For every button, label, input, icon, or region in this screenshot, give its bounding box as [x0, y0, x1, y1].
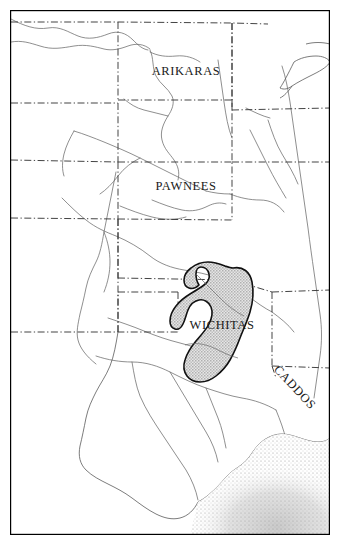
label-pawnees: PAWNEES	[155, 179, 216, 193]
label-wichitas: WICHITAS	[190, 318, 255, 332]
map-body	[10, 10, 330, 535]
map-canvas: ARIKARAS PAWNEES WICHITAS CADDOS	[0, 0, 341, 550]
historical-map-figure: ARIKARAS PAWNEES WICHITAS CADDOS	[0, 0, 341, 550]
label-arikaras: ARIKARAS	[152, 64, 221, 78]
